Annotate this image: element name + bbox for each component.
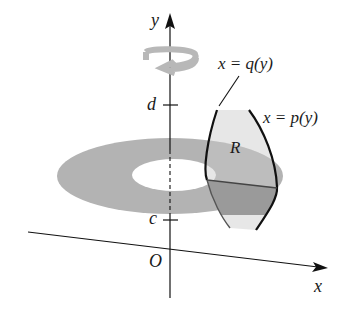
tick-label-c: c [149,209,157,227]
x-axis-label: x [314,277,322,295]
diagram-canvas [0,0,338,324]
x-axis [28,232,328,272]
rotation-arrow-icon [146,49,196,72]
y-axis-label: y [151,11,159,29]
origin-label: O [149,252,162,270]
solid-of-revolution-figure: y x O d c x = q(y) x = p(y) R [0,0,338,324]
curve-p-label: x = p(y) [263,109,318,126]
curve-q-label: x = q(y) [218,55,273,72]
q-leader-line [219,76,239,106]
region-r-label: R [230,139,240,156]
tick-label-d: d [147,95,156,113]
